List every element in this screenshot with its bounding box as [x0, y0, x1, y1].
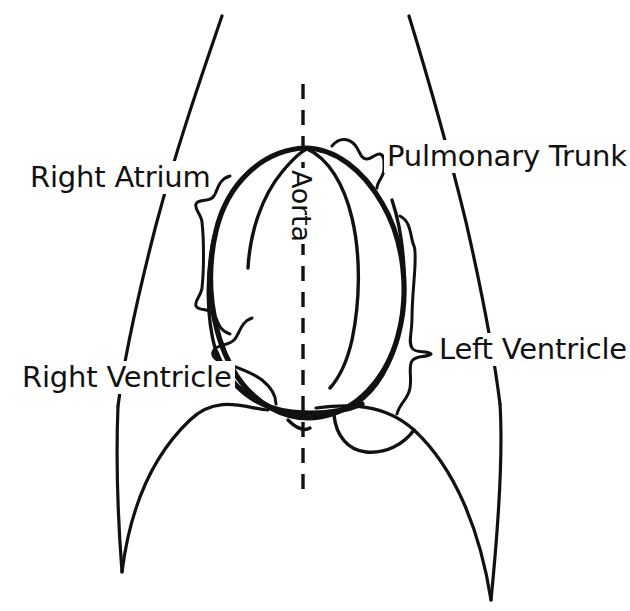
- label-pulmonary-trunk: Pulmonary Trunk: [384, 140, 630, 173]
- diagram-canvas: [0, 0, 630, 611]
- right-costophrenic-angle-line: [117, 406, 122, 572]
- label-aorta: Aorta: [287, 168, 316, 244]
- left-costophrenic-angle-line: [491, 404, 501, 600]
- apex-notch-mark: [288, 420, 310, 430]
- left-hemidiaphragm: [316, 406, 491, 600]
- right-lung-lateral-border: [118, 16, 222, 406]
- label-right-ventricle: Right Ventricle: [19, 361, 235, 394]
- label-left-ventricle: Left Ventricle: [436, 333, 630, 366]
- thorax-outline-group: [117, 16, 501, 600]
- cardiac-silhouette-diagram: Right Atrium Pulmonary Trunk Left Ventri…: [0, 0, 630, 611]
- label-right-atrium: Right Atrium: [27, 161, 214, 194]
- right-hemidiaphragm: [122, 404, 268, 572]
